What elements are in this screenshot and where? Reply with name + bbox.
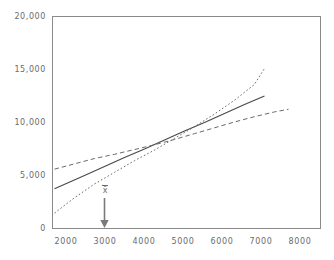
x-tick-label-3000: 3000 (85, 237, 125, 246)
mean-arrow-head-icon (100, 220, 108, 228)
y-tick-label-5000: 5,000 (2, 171, 46, 180)
plot-canvas (0, 0, 334, 260)
y-tick-label-10000: 10,000 (2, 118, 46, 127)
series-regression-line (55, 96, 265, 189)
chart-figure: 20,000 15,000 10,000 5,000 0 2000 3000 4… (0, 0, 334, 260)
x-tick-label-6000: 6000 (202, 237, 242, 246)
series-upper-band (55, 68, 265, 213)
x-tick-label-4000: 4000 (124, 237, 164, 246)
x-tick-label-5000: 5000 (163, 237, 203, 246)
plot-frame (53, 17, 321, 229)
y-tick-label-20000: 20,000 (2, 12, 46, 21)
x-tick-label-8000: 8000 (280, 237, 320, 246)
x-tick-label-2000: 2000 (46, 237, 86, 246)
y-tick-label-0: 0 (2, 224, 46, 233)
series-lower-band (55, 109, 289, 169)
y-tick-label-15000: 15,000 (2, 65, 46, 74)
mean-arrow (100, 198, 108, 228)
mean-marker-label: x̄ (95, 185, 115, 195)
x-tick-label-7000: 7000 (241, 237, 281, 246)
mean-symbol-glyph: x̄ (95, 187, 115, 195)
